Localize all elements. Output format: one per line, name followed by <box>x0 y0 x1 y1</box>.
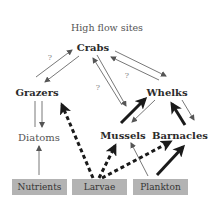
arrow-plankton-to-barnacles <box>157 147 183 175</box>
source-nutrients: Nutrients <box>12 179 67 195</box>
food-web-diagram: High flow sites Crabs Grazers Whelks Dia… <box>0 0 214 208</box>
arrow-larvae-to-grazers <box>62 105 93 178</box>
node-crabs: Crabs <box>77 42 109 53</box>
diagram-title: High flow sites <box>71 22 143 33</box>
arrow-mussels-to-crabs <box>93 58 122 105</box>
arrow-crabs-to-mussels <box>97 55 126 106</box>
arrow-whelks-to-mussels <box>132 100 155 122</box>
node-mussels: Mussels <box>100 130 145 141</box>
arrow-barnacles-to-whelks <box>172 104 185 125</box>
source-larvae: Larvae <box>72 179 127 195</box>
question-mark-whelks-crabs: ? <box>125 71 129 80</box>
arrow-grazers-to-crabs <box>36 50 72 77</box>
node-barnacles: Barnacles <box>152 130 208 141</box>
arrow-mussels-to-whelks <box>121 99 145 123</box>
arrow-plankton-to-mussels <box>131 143 148 176</box>
node-whelks: Whelks <box>146 87 187 98</box>
arrow-larvae-to-mussels <box>99 146 115 178</box>
question-mark-grazers-crabs: ? <box>48 53 52 62</box>
question-mark-mussels-crabs: ? <box>96 83 100 92</box>
arrow-crabs-to-whelks <box>115 51 166 76</box>
arrow-whelks-to-barnacles <box>182 100 194 120</box>
node-diatoms: Diatoms <box>18 132 60 143</box>
node-grazers: Grazers <box>15 87 58 98</box>
source-plankton: Plankton <box>133 179 188 195</box>
